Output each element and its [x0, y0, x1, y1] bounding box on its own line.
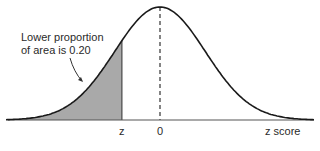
- annotation-line-1: Lower proportion: [21, 31, 104, 44]
- tick-label-zero: 0: [157, 125, 163, 138]
- x-axis-label: z score: [265, 125, 300, 138]
- tick-label-z: z: [119, 125, 125, 138]
- annotation-line-2: of area is 0.20: [21, 44, 104, 57]
- area-annotation: Lower proportion of area is 0.20: [21, 31, 104, 57]
- annotation-arrow-icon: [70, 58, 82, 81]
